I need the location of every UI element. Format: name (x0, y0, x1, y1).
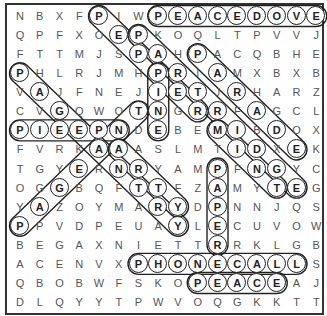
letter-cell-r12-c11[interactable]: E (209, 217, 227, 235)
letter-grid[interactable]: NBXFPIWPEACEDOVEQPFXOEPKOQLTPVVJFTTMJSPA… (0, 0, 327, 316)
letter-cell-r14-c2[interactable]: C (31, 255, 49, 273)
letter-cell-r5-c7[interactable]: J (130, 83, 148, 101)
letter-cell-r3-c1[interactable]: F (11, 45, 29, 63)
letter-cell-r4-c2[interactable]: H (31, 64, 49, 82)
letter-cell-r10-c10[interactable]: Z (189, 179, 207, 197)
letter-cell-r12-c13[interactable]: U (248, 217, 266, 235)
letter-cell-r6-c6[interactable]: O (110, 102, 128, 120)
letter-cell-r1-c10[interactable]: A (189, 7, 207, 25)
letter-cell-r13-c9[interactable]: T (169, 236, 187, 254)
letter-cell-r6-c3[interactable]: G (51, 102, 69, 120)
letter-cell-r1-c16[interactable]: E (307, 7, 325, 25)
letter-cell-r10-c9[interactable]: F (169, 179, 187, 197)
letter-cell-r8-c1[interactable]: F (11, 140, 29, 158)
letter-cell-r13-c15[interactable]: G (288, 236, 306, 254)
letter-cell-r2-c4[interactable]: X (70, 26, 88, 44)
letter-cell-r5-c3[interactable]: J (51, 83, 69, 101)
letter-cell-r16-c4[interactable]: Y (70, 293, 88, 311)
letter-cell-r4-c3[interactable]: L (51, 64, 69, 82)
letter-cell-r12-c6[interactable]: E (110, 217, 128, 235)
letter-cell-r5-c5[interactable]: N (90, 83, 108, 101)
letter-cell-r12-c2[interactable]: P (31, 217, 49, 235)
letter-cell-r10-c15[interactable]: E (288, 179, 306, 197)
letter-cell-r15-c5[interactable]: W (90, 274, 108, 292)
letter-cell-r15-c2[interactable]: B (31, 274, 49, 292)
letter-cell-r1-c14[interactable]: O (268, 7, 286, 25)
letter-cell-r16-c11[interactable]: Q (209, 293, 227, 311)
letter-cell-r2-c3[interactable]: F (51, 26, 69, 44)
letter-cell-r3-c8[interactable]: A (149, 45, 167, 63)
letter-cell-r7-c10[interactable]: E (189, 121, 207, 139)
letter-cell-r6-c14[interactable]: G (268, 102, 286, 120)
letter-cell-r7-c4[interactable]: E (70, 121, 88, 139)
letter-cell-r9-c16[interactable]: C (307, 160, 325, 178)
letter-cell-r11-c16[interactable]: S (307, 198, 325, 216)
letter-cell-r7-c16[interactable]: X (307, 121, 325, 139)
letter-cell-r14-c12[interactable]: C (228, 255, 246, 273)
letter-cell-r6-c9[interactable]: G (169, 102, 187, 120)
letter-cell-r13-c8[interactable]: E (149, 236, 167, 254)
letter-cell-r1-c8[interactable]: P (149, 7, 167, 25)
letter-cell-r3-c15[interactable]: H (288, 45, 306, 63)
letter-cell-r4-c16[interactable]: B (307, 64, 325, 82)
letter-cell-r15-c8[interactable]: K (149, 274, 167, 292)
letter-cell-r2-c6[interactable]: E (110, 26, 128, 44)
letter-cell-r8-c8[interactable]: S (149, 140, 167, 158)
letter-cell-r3-c14[interactable]: B (268, 45, 286, 63)
letter-cell-r3-c3[interactable]: T (51, 45, 69, 63)
letter-cell-r3-c11[interactable]: A (209, 45, 227, 63)
letter-cell-r2-c5[interactable]: O (90, 26, 108, 44)
letter-cell-r11-c12[interactable]: N (228, 198, 246, 216)
letter-cell-r7-c9[interactable]: B (169, 121, 187, 139)
letter-cell-r12-c12[interactable]: C (228, 217, 246, 235)
letter-cell-r12-c16[interactable]: W (307, 217, 325, 235)
letter-cell-r8-c14[interactable]: X (268, 140, 286, 158)
letter-cell-r9-c2[interactable]: G (31, 160, 49, 178)
letter-cell-r13-c11[interactable]: R (209, 236, 227, 254)
letter-cell-r2-c16[interactable]: J (307, 26, 325, 44)
letter-cell-r10-c3[interactable]: G (51, 179, 69, 197)
letter-cell-r5-c6[interactable]: E (110, 83, 128, 101)
letter-cell-r11-c5[interactable]: Y (90, 198, 108, 216)
letter-cell-r12-c1[interactable]: P (11, 217, 29, 235)
letter-cell-r6-c1[interactable]: C (11, 102, 29, 120)
letter-cell-r11-c10[interactable]: D (189, 198, 207, 216)
letter-cell-r12-c7[interactable]: U (130, 217, 148, 235)
letter-cell-r1-c11[interactable]: C (209, 7, 227, 25)
letter-cell-r6-c15[interactable]: C (288, 102, 306, 120)
letter-cell-r1-c2[interactable]: B (31, 7, 49, 25)
letter-cell-r16-c3[interactable]: Q (51, 293, 69, 311)
letter-cell-r8-c3[interactable]: R (51, 140, 69, 158)
letter-cell-r16-c8[interactable]: W (149, 293, 167, 311)
letter-cell-r13-c1[interactable]: B (11, 236, 29, 254)
letter-cell-r15-c15[interactable]: A (288, 274, 306, 292)
letter-cell-r6-c10[interactable]: R (189, 102, 207, 120)
letter-cell-r14-c11[interactable]: E (209, 255, 227, 273)
letter-cell-r11-c13[interactable]: N (248, 198, 266, 216)
letter-cell-r5-c16[interactable]: Z (307, 83, 325, 101)
letter-cell-r14-c10[interactable]: N (189, 255, 207, 273)
letter-cell-r3-c9[interactable]: H (169, 45, 187, 63)
letter-cell-r7-c8[interactable]: E (149, 121, 167, 139)
letter-cell-r14-c15[interactable]: L (288, 255, 306, 273)
letter-cell-r16-c9[interactable]: V (169, 293, 187, 311)
letter-cell-r5-c11[interactable]: J (209, 83, 227, 101)
letter-cell-r10-c14[interactable]: T (268, 179, 286, 197)
letter-cell-r8-c7[interactable]: A (130, 140, 148, 158)
letter-cell-r6-c12[interactable]: F (228, 102, 246, 120)
letter-cell-r4-c8[interactable]: P (149, 64, 167, 82)
letter-cell-r16-c15[interactable]: T (288, 293, 306, 311)
letter-cell-r7-c3[interactable]: E (51, 121, 69, 139)
letter-cell-r14-c7[interactable]: P (130, 255, 148, 273)
letter-cell-r15-c1[interactable]: Q (11, 274, 29, 292)
letter-cell-r9-c10[interactable]: M (189, 160, 207, 178)
letter-cell-r15-c12[interactable]: A (228, 274, 246, 292)
letter-cell-r13-c12[interactable]: R (228, 236, 246, 254)
letter-cell-r12-c4[interactable]: D (70, 217, 88, 235)
letter-cell-r14-c13[interactable]: A (248, 255, 266, 273)
letter-cell-r16-c1[interactable]: D (11, 293, 29, 311)
letter-cell-r9-c13[interactable]: N (248, 160, 266, 178)
letter-cell-r11-c1[interactable]: Y (11, 198, 29, 216)
letter-cell-r6-c11[interactable]: R (209, 102, 227, 120)
letter-cell-r5-c8[interactable]: I (149, 83, 167, 101)
